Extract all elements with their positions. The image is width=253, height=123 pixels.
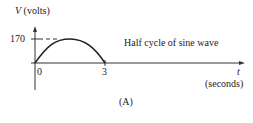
y-axis-var: V xyxy=(15,5,21,16)
y-axis-arrow-icon xyxy=(33,26,37,32)
y-axis-unit: (volts) xyxy=(24,5,50,16)
x-axis-unit: (seconds) xyxy=(205,79,243,89)
x-tick-label-0: 0 xyxy=(37,67,42,77)
x-axis-var: t xyxy=(237,67,240,77)
x-tick-label-3: 3 xyxy=(102,67,107,77)
curve-annotation: Half cycle of sine wave xyxy=(124,38,218,48)
panel-label: (A) xyxy=(119,97,133,107)
y-tick-label: 170 xyxy=(10,34,25,44)
sine-curve xyxy=(35,39,105,63)
y-axis-label: V (volts) xyxy=(15,6,50,16)
x-axis-arrow-icon xyxy=(239,61,245,65)
